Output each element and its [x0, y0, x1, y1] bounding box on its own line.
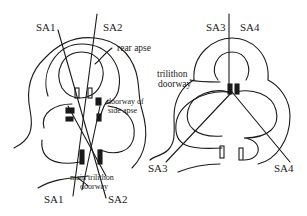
label-sa1-bottom: SA1 — [44, 193, 64, 205]
label-sa4-top: SA4 — [240, 21, 260, 33]
label-sa1-top: SA1 — [36, 21, 56, 33]
label-trilithon-2: doorway — [158, 79, 191, 89]
label-sa3-bottom: SA3 — [148, 162, 168, 174]
label-main-trilithon-2: doorway — [80, 182, 108, 191]
label-trilithon-1: trilithon — [157, 69, 188, 79]
label-sa2-top: SA2 — [103, 21, 123, 33]
label-main-trilithon-1: main trilithon — [70, 173, 114, 182]
axis-sa4 — [232, 92, 290, 162]
label-sa2-bottom: SA2 — [108, 193, 128, 205]
label-sa3-top: SA3 — [206, 21, 226, 33]
label-sa4-bottom: SA4 — [274, 162, 294, 174]
label-doorway-side-apse-1: doorway of — [107, 97, 144, 106]
right-temple-plan — [150, 14, 290, 172]
axis-sa2 — [73, 14, 97, 196]
label-doorway-side-apse-2: side apse — [108, 106, 138, 115]
diagram-svg: SA1 SA2 rear apse doorway of side apse m… — [0, 0, 307, 216]
label-rear-apse: rear apse — [117, 43, 151, 53]
temple-plan-diagram: SA1 SA2 rear apse doorway of side apse m… — [0, 0, 307, 216]
